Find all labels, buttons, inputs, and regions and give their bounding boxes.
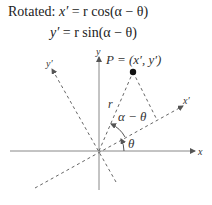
angle-theta-arc: [121, 139, 124, 151]
point-p: [130, 69, 136, 75]
angle-alpha-minus-theta-label: α − θ: [118, 109, 147, 124]
y-prime-axis: [52, 69, 116, 182]
x-prime-axis-label: x′: [182, 95, 190, 106]
x-axis-label: x: [197, 146, 203, 157]
rotation-diagram: P = (x′, y′) x y x′ y′ r α − θ θ: [0, 0, 212, 205]
radius-label: r: [108, 97, 113, 111]
x-prime-axis: [35, 106, 183, 188]
angle-theta-label: θ: [128, 136, 135, 151]
point-p-label: P = (x′, y′): [105, 52, 161, 67]
y-axis-label: y: [95, 46, 101, 57]
y-prime-axis-label: y′: [45, 58, 53, 69]
angle-alpha-minus-theta-arc: [111, 124, 125, 137]
